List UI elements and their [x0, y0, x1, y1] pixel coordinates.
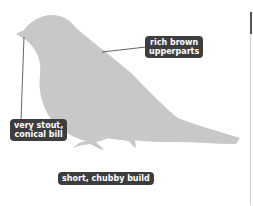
- bill-leader: [21, 37, 24, 120]
- label-upperparts: rich brown upperparts: [145, 36, 203, 58]
- divider-line: [250, 12, 251, 205]
- upperparts-leader: [102, 47, 146, 52]
- divider-accent: [250, 12, 252, 34]
- label-bill: very stout, conical bill: [10, 119, 67, 141]
- label-build: short, chubby build: [58, 172, 154, 185]
- label-bill-line2: conical bill: [14, 130, 63, 139]
- label-upperparts-line1: rich brown: [149, 38, 199, 47]
- label-upperparts-line2: upperparts: [149, 47, 199, 56]
- label-bill-line1: very stout,: [14, 121, 63, 130]
